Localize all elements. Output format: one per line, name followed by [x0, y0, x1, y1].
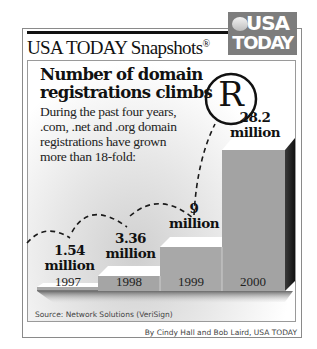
year-label-2000: 2000 — [223, 274, 283, 290]
headline: Number of domain registrations climbs — [40, 66, 212, 102]
year-label-1999: 1999 — [161, 274, 221, 290]
chart-graphic — [0, 0, 317, 349]
year-label-1998: 1998 — [99, 274, 159, 290]
dek-text: During the past four years, .com, .net a… — [40, 104, 190, 164]
value-label-1998: 3.36million — [103, 231, 158, 261]
value-label-1997: 1.54million — [42, 243, 97, 273]
bar-2000 — [222, 138, 295, 291]
year-label-1997: 1997 — [38, 274, 98, 290]
value-label-2000: 28.2million — [225, 110, 285, 140]
value-label-1999: 9million — [164, 201, 224, 231]
source-note: Source: Network Solutions (VeriSign) — [35, 310, 173, 319]
byline-credit: By Cindy Hall and Bob Laird, USA TODAY — [145, 328, 297, 337]
floor-shadow — [37, 291, 293, 304]
